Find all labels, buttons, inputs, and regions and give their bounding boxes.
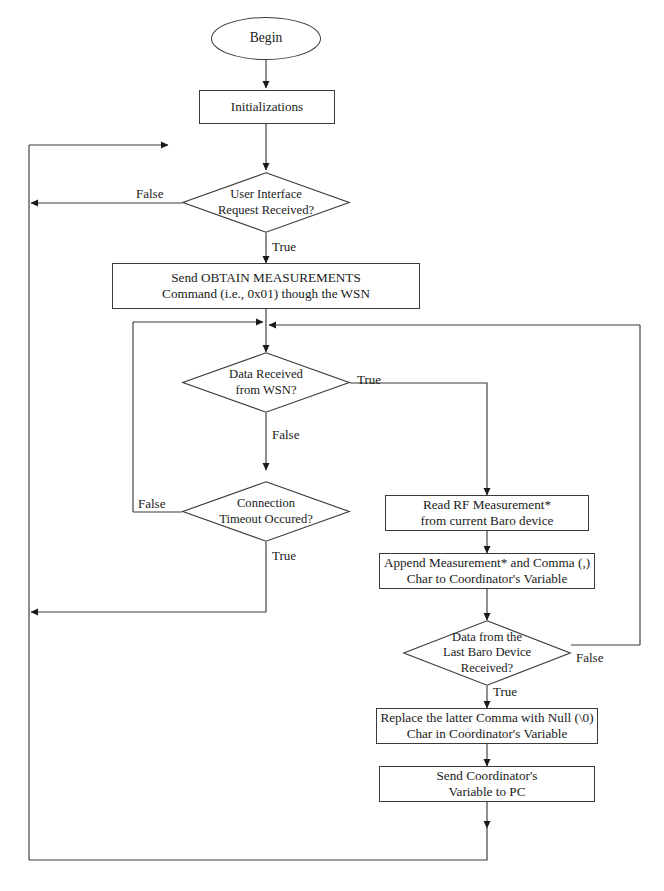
node-send-coordinator-variable-label: Send Coordinator's Variable to PC [437, 768, 538, 800]
edge-label-baro-true: True [493, 684, 517, 700]
edge-data-true-to-read-rf [350, 383, 487, 495]
edge-label-timeout-true: True [272, 548, 296, 564]
node-connection-timeout[interactable]: Connection Timeout Occured? [182, 481, 350, 542]
node-connection-timeout-label: Connection Timeout Occured? [182, 481, 350, 542]
node-append-measurement-label: Append Measurement* and Comma (,) Char t… [384, 555, 590, 587]
node-last-baro-device-label: Data from the Last Baro Device Received? [403, 620, 571, 686]
node-read-rf-measurement-label: Read RF Measurement* from current Baro d… [421, 497, 554, 529]
edge-label-ui-true: True [272, 239, 296, 255]
node-send-obtain-measurements-label: Send OBTAIN MEASUREMENTS Command (i.e., … [162, 270, 370, 302]
node-send-coordinator-variable[interactable]: Send Coordinator's Variable to PC [379, 766, 595, 802]
node-data-received[interactable]: Data Received from WSN? [182, 352, 350, 413]
node-initializations[interactable]: Initializations [199, 90, 335, 124]
edge-label-data-true: True [357, 372, 381, 388]
edge-timeout-true-to-left-trunk [31, 542, 266, 612]
node-initializations-label: Initializations [231, 99, 304, 115]
edge-label-baro-false: False [576, 650, 603, 666]
flowchart-edges [0, 0, 664, 891]
node-data-received-label: Data Received from WSN? [182, 352, 350, 413]
node-replace-comma-label: Replace the latter Comma with Null (\0) … [380, 710, 593, 742]
node-last-baro-device[interactable]: Data from the Last Baro Device Received? [403, 620, 571, 686]
node-ui-request[interactable]: User Interface Request Received? [182, 172, 350, 233]
edge-send-pc-to-left-trunk [29, 828, 487, 860]
node-append-measurement[interactable]: Append Measurement* and Comma (,) Char t… [379, 553, 595, 589]
node-read-rf-measurement[interactable]: Read RF Measurement* from current Baro d… [385, 495, 589, 531]
edge-label-data-false: False [272, 427, 299, 443]
node-send-obtain-measurements[interactable]: Send OBTAIN MEASUREMENTS Command (i.e., … [112, 263, 420, 309]
edge-label-ui-false: False [136, 186, 163, 202]
node-begin[interactable]: Begin [211, 17, 321, 60]
node-begin-label: Begin [250, 30, 282, 47]
flowchart-canvas: Begin Initializations User Interface Req… [0, 0, 664, 891]
node-ui-request-label: User Interface Request Received? [182, 172, 350, 233]
edge-label-timeout-false: False [138, 496, 165, 512]
node-replace-comma[interactable]: Replace the latter Comma with Null (\0) … [376, 708, 598, 744]
